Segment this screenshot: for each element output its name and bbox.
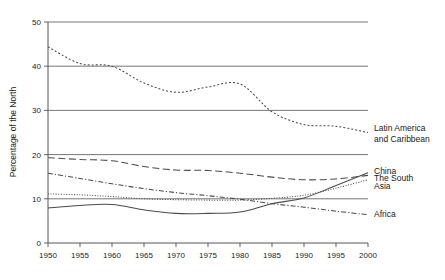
x-tick-label-2000: 2000: [359, 251, 377, 260]
y-tick-label-40: 40: [32, 62, 41, 71]
data-series-lines: [48, 47, 368, 215]
series-line-the-south: [48, 158, 368, 180]
series-label-china: China: [374, 166, 396, 176]
x-axis-tick-labels: 1950195519601965197019751980198519901995…: [39, 251, 377, 260]
x-tick-label-1980: 1980: [231, 251, 249, 260]
y-tick-label-20: 20: [32, 151, 41, 160]
chart-root: 01020304050 1950195519601965197019751980…: [0, 0, 445, 280]
y-tick-label-0: 0: [37, 239, 42, 248]
x-tick-label-1955: 1955: [71, 251, 89, 260]
x-tick-label-1960: 1960: [103, 251, 121, 260]
series-label-africa: Africa: [374, 209, 396, 219]
gridlines: [48, 22, 368, 199]
y-tick-label-10: 10: [32, 195, 41, 204]
y-axis-title: Percentage of the North: [8, 87, 18, 178]
series-label-asia: Asia: [374, 181, 391, 191]
series-labels: Latin Americaand CaribbeanThe SouthChina…: [374, 123, 430, 219]
line-chart: 01020304050 1950195519601965197019751980…: [0, 0, 445, 280]
x-tick-label-1995: 1995: [327, 251, 345, 260]
x-tick-label-1975: 1975: [199, 251, 217, 260]
x-tick-label-1990: 1990: [295, 251, 313, 260]
x-tick-label-1965: 1965: [135, 251, 153, 260]
series-line-latin-america-and-caribbean: [48, 47, 368, 133]
series-label-latin-america-and-caribbean: Latin America: [374, 123, 426, 133]
x-tick-label-1950: 1950: [39, 251, 57, 260]
series-line-china: [48, 173, 368, 214]
y-tick-label-50: 50: [32, 18, 41, 27]
series-line-asia: [48, 180, 368, 200]
y-axis-tick-labels: 01020304050: [32, 18, 41, 248]
y-tick-label-30: 30: [32, 106, 41, 115]
x-tick-label-1985: 1985: [263, 251, 281, 260]
series-label-latin-america-and-caribbean-line2: and Caribbean: [374, 134, 430, 144]
x-tick-label-1970: 1970: [167, 251, 185, 260]
axes: [48, 22, 368, 243]
